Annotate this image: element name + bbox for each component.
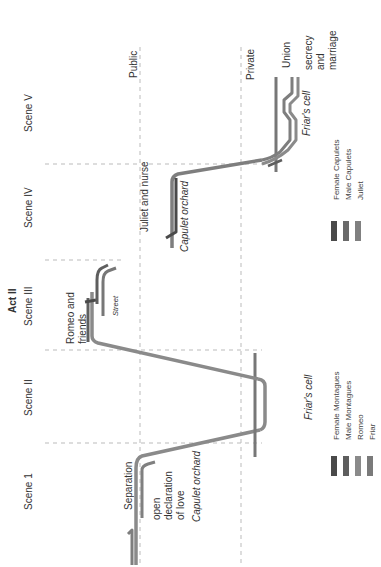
annotation-separation: Separation xyxy=(123,462,134,510)
storyline-romeo-friars-cell xyxy=(258,379,265,430)
legend-swatch-male-montagues xyxy=(343,456,349,476)
annotation-secrecy: secrecy xyxy=(303,36,314,70)
annotation-marriage: marriage xyxy=(327,30,338,70)
legend-label-male-montagues: Male Montagues xyxy=(344,381,353,440)
annotation-union: Union xyxy=(281,42,292,68)
legend-label-juliet: Juliet xyxy=(356,181,365,200)
storyline-friends-marker xyxy=(85,300,96,302)
annotation-friends: friends xyxy=(77,314,88,344)
act-title: Act II xyxy=(7,288,18,313)
legend-label-friar: Friar xyxy=(368,423,377,440)
scene-label-i: Scene 1 xyxy=(23,473,34,510)
location-street: Street xyxy=(111,295,120,316)
location-capulet-orchard-2: Capulet orchard xyxy=(179,180,190,252)
location-capulet-orchard-1: Capulet orchard xyxy=(191,450,202,522)
annotation-romeo-and: Romeo and xyxy=(65,292,76,344)
legend-label-female-capulets: Female Capulets xyxy=(332,140,341,200)
location-friars-cell-2: Friar's cell xyxy=(301,90,312,136)
annotation-juliet-and-nurse: Juliet and nurse xyxy=(139,161,150,232)
legend-label-female-montagues: Female Montagues xyxy=(332,372,341,440)
legend-label-romeo: Romeo xyxy=(356,414,365,440)
annotation-and: and xyxy=(315,53,326,70)
legend-swatch-friar xyxy=(367,456,373,476)
zone-label-public: Public xyxy=(128,51,139,78)
annotation-of-love: of love xyxy=(175,490,186,520)
legend-label-male-capulets: Male Capulets xyxy=(344,149,353,200)
legend-swatch-juliet xyxy=(355,221,361,241)
zone-label-private: Private xyxy=(245,48,256,80)
scene-label-iv: Scene IV xyxy=(23,187,34,228)
legend-swatch-romeo xyxy=(355,456,361,476)
legend-capulets: Female Capulets Male Capulets Juliet xyxy=(331,140,365,241)
legend-swatch-male-capulets xyxy=(343,221,349,241)
legend-swatch-female-montagues xyxy=(331,456,337,476)
storyline-diagram: Scene V Scene IV Act II Scene III Scene … xyxy=(0,0,381,567)
storyline-juliet-start xyxy=(128,530,132,565)
scene-label-ii: Scene II xyxy=(23,379,34,416)
location-friars-cell-1: Friar's cell xyxy=(303,374,314,420)
annotation-open: open xyxy=(151,498,162,520)
legend-swatch-female-capulets xyxy=(331,221,337,241)
scene-label-v: Scene V xyxy=(23,94,34,132)
legend-montagues: Female Montagues Male Montagues Romeo Fr… xyxy=(331,372,377,476)
scene-label-iii: Scene III xyxy=(23,287,34,326)
annotation-declaration: declaration xyxy=(163,471,174,520)
